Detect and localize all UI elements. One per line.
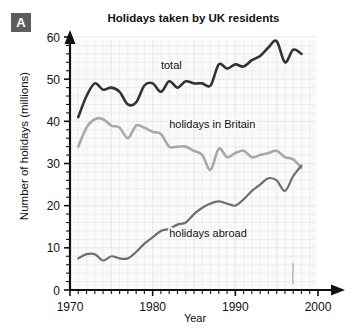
- x-axis-tick-label: 1970: [57, 300, 84, 314]
- series-label-total: total: [161, 59, 182, 71]
- y-axis-tick-label: 10: [47, 241, 61, 255]
- x-axis-tick-label: 1990: [222, 300, 249, 314]
- x-axis-tick-label: 1980: [139, 300, 166, 314]
- y-axis-tick-label: 50: [47, 73, 61, 87]
- stray-mark: [293, 263, 294, 284]
- y-axis-tick-label: 20: [47, 199, 61, 213]
- y-axis-tick-label: 30: [47, 157, 61, 171]
- series-label-holidays-in-Britain: holidays in Britain: [169, 118, 255, 130]
- x-axis-arrow: [331, 285, 345, 296]
- chart-figure: A Holidays taken by UK residents Number …: [0, 0, 353, 336]
- y-axis-tick-label: 60: [47, 31, 61, 45]
- x-axis-tick-label: 2000: [305, 300, 332, 314]
- plot-area: 01020304050601970198019902000totalholida…: [0, 0, 353, 336]
- series-label-holidays-abroad: holidays abroad: [169, 227, 247, 239]
- y-axis-tick-label: 40: [47, 115, 61, 129]
- y-axis-tick-label: 0: [53, 284, 60, 298]
